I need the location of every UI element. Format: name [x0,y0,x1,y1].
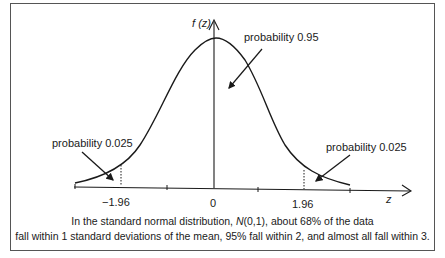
arrow-right-icon [316,155,350,181]
caption-line-2: fall within 1 standard deviations of the… [10,230,435,242]
annotation-left: probability 0.025 [52,137,133,149]
annotation-right: probability 0.025 [326,141,407,153]
x-axis [74,187,410,191]
tick-label-neg: −1.96 [102,196,130,208]
tick-label-zero: 0 [210,197,216,209]
annotation-center: probability 0.95 [244,31,319,43]
caption-text-b: (0,1), about 68% of the data [244,215,374,227]
tick-label-pos: 1.96 [292,198,313,210]
y-label-f: f [192,17,195,29]
y-axis-label: f (z) [192,17,211,29]
caption-line-1: In the standard normal distribution, N(0… [10,215,435,227]
caption-text-a: In the standard normal distribution, [71,215,236,227]
arrow-left-icon [82,152,113,180]
x-axis-label: z [386,193,392,205]
y-label-z: (z) [198,17,211,29]
normal-curve [75,38,350,185]
caption-n-symbol: N [236,215,244,227]
